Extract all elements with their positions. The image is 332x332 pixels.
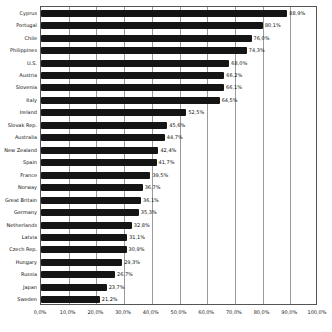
category-label: Slovak Rep. [0,122,37,128]
value-label: 42,4% [160,147,176,154]
category-label: New Zealand [0,147,37,153]
value-label: 66,1% [226,84,242,91]
category-label: Czech Rep. [0,246,37,252]
axis-tick-label: 70,0% [221,309,247,315]
bar-australia [41,134,165,141]
axis-tick-label: 80,0% [249,309,275,315]
category-label: Spain [0,159,37,165]
category-label: Great Britain [0,197,37,203]
value-label: 36,1% [143,197,159,204]
category-label: Austria [0,72,37,78]
category-label: Ireland [0,109,37,115]
value-label: 76,0% [254,35,270,42]
category-label: U.S. [0,60,37,66]
gridline [290,7,291,304]
value-label: 45,6% [169,122,185,129]
category-label: Philippines [0,47,37,53]
value-label: 52,5% [188,109,204,116]
category-label: Italy [0,97,37,103]
category-label: Norway [0,184,37,190]
bar-slovak-rep- [41,122,167,129]
value-label: 26,7% [117,271,133,278]
bar-norway [41,184,143,191]
value-label: 39,5% [152,172,168,179]
value-label: 41,7% [159,159,175,166]
category-label: Slovenia [0,84,37,90]
axis-tick-label: 10,0% [55,309,81,315]
value-label: 88,9% [289,10,305,17]
value-label: 21,2% [102,296,118,303]
value-label: 74,3% [249,47,265,54]
bar-italy [41,97,220,104]
bar-latvia [41,234,127,241]
bar-portugal [41,22,263,29]
bar-philippines [41,47,247,54]
value-label: 80,1% [265,22,281,29]
bar-ireland [41,109,186,116]
axis-tick-label: 30,0% [110,309,136,315]
value-label: 36,7% [145,184,161,191]
value-label: 29,3% [124,259,140,266]
category-label: Hungary [0,259,37,265]
axis-tick-label: 100,0% [304,309,330,315]
bar-u-s- [41,60,229,67]
category-label: Latvia [0,234,37,240]
value-label: 32,8% [134,222,150,229]
value-label: 66,2% [226,72,242,79]
bar-great-britain [41,197,141,204]
bar-czech-rep- [41,246,127,253]
bar-france [41,172,150,179]
bar-netherlands [41,222,132,229]
bar-cyprus [41,10,287,17]
bar-chart: 88,9%80,1%76,0%74,3%68,0%66,2%66,1%64,5%… [0,0,332,332]
value-label: 35,3% [141,209,157,216]
category-label: Sweden [0,296,37,302]
bar-austria [41,72,224,79]
category-label: Japan [0,284,37,290]
axis-tick-label: 60,0% [193,309,219,315]
category-label: France [0,172,37,178]
category-label: Portugal [0,22,37,28]
value-label: 30,9% [129,246,145,253]
bar-hungary [41,259,122,266]
value-label: 68,0% [231,60,247,67]
category-label: Chile [0,35,37,41]
axis-tick-label: 0,0% [27,309,53,315]
category-label: Australia [0,134,37,140]
bar-slovenia [41,84,224,91]
bar-chile [41,35,252,42]
bar-russia [41,271,115,278]
plot-area: 88,9%80,1%76,0%74,3%68,0%66,2%66,1%64,5%… [40,6,317,305]
axis-tick-label: 20,0% [82,309,108,315]
category-label: Netherlands [0,222,37,228]
bar-germany [41,209,139,216]
axis-tick-label: 50,0% [166,309,192,315]
value-label: 23,7% [109,284,125,291]
axis-tick-label: 40,0% [138,309,164,315]
category-label: Cyprus [0,10,37,16]
category-label: Germany [0,209,37,215]
bar-japan [41,284,107,291]
axis-tick-label: 90,0% [276,309,302,315]
bar-new-zealand [41,147,158,154]
value-label: 64,5% [222,97,238,104]
bar-sweden [41,296,100,303]
value-label: 31,1% [129,234,145,241]
category-label: Russia [0,271,37,277]
bar-spain [41,159,157,166]
value-label: 44,7% [167,134,183,141]
